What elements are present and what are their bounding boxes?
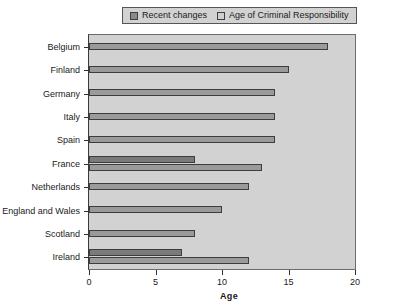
bar-age-of-criminal-responsibility: [89, 113, 275, 120]
x-axis-tick-label: 10: [210, 277, 234, 287]
bar-group: [89, 58, 355, 81]
y-axis-tick: [84, 187, 88, 188]
y-axis-label-belgium: Belgium: [47, 42, 80, 52]
x-axis-tick-label: 5: [144, 277, 168, 287]
bar-age-of-criminal-responsibility: [89, 183, 249, 190]
y-axis-tick: [84, 94, 88, 95]
legend-label-age-of-criminal-responsibility: Age of Criminal Responsibility: [229, 11, 349, 20]
y-axis-tick: [84, 164, 88, 165]
bar-group: [89, 199, 355, 222]
y-axis-tick: [84, 140, 88, 141]
bar-group: [89, 175, 355, 198]
bar-group: [89, 246, 355, 269]
y-axis-label-scotland: Scotland: [45, 229, 80, 239]
chart-legend: Recent changes Age of Criminal Responsib…: [122, 7, 357, 24]
y-axis-tick: [84, 211, 88, 212]
recent-changes-swatch: [130, 12, 138, 20]
y-axis-tick: [84, 47, 88, 48]
bar-group: [89, 82, 355, 105]
bar-recent-changes: [89, 249, 182, 256]
bar-age-of-criminal-responsibility: [89, 164, 262, 171]
x-axis-tick-label: 20: [343, 277, 367, 287]
bar-age-of-criminal-responsibility: [89, 230, 195, 237]
age-of-criminal-responsibility-swatch: [217, 12, 225, 20]
legend-label-recent-changes: Recent changes: [142, 11, 207, 20]
plot-inner: [89, 35, 355, 269]
bar-group: [89, 129, 355, 152]
y-axis-tick: [84, 257, 88, 258]
bar-group: [89, 152, 355, 175]
bar-age-of-criminal-responsibility: [89, 89, 275, 96]
y-axis-label-france: France: [52, 159, 80, 169]
x-axis-tick-label: 0: [77, 277, 101, 287]
x-axis-title: Age: [0, 291, 396, 301]
bar-group: [89, 222, 355, 245]
y-axis-tick: [84, 70, 88, 71]
plot-area: [88, 34, 356, 270]
bar-recent-changes: [89, 156, 195, 163]
legend-entry-age-of-criminal-responsibility: Age of Criminal Responsibility: [217, 11, 349, 20]
x-axis-tick: [289, 270, 290, 275]
x-axis-title-label: Age: [220, 291, 238, 301]
bar-age-of-criminal-responsibility: [89, 206, 222, 213]
x-axis-tick: [222, 270, 223, 275]
bar-age-of-criminal-responsibility: [89, 136, 275, 143]
legend-entry-recent-changes: Recent changes: [130, 11, 207, 20]
y-axis-label-germany: Germany: [43, 89, 80, 99]
bar-age-of-criminal-responsibility: [89, 43, 328, 50]
x-axis-tick-label: 15: [277, 277, 301, 287]
bar-chart: Recent changes Age of Criminal Responsib…: [0, 0, 396, 306]
bar-group: [89, 35, 355, 58]
y-axis-label-spain: Spain: [57, 135, 80, 145]
x-axis-tick: [156, 270, 157, 275]
x-axis-tick: [89, 270, 90, 275]
bar-age-of-criminal-responsibility: [89, 66, 289, 73]
y-axis-label-ireland: Ireland: [52, 252, 80, 262]
y-axis-label-finland: Finland: [50, 65, 80, 75]
y-axis-label-england-and-wales: England and Wales: [2, 206, 80, 216]
y-axis-tick: [84, 234, 88, 235]
x-axis-tick: [355, 270, 356, 275]
bar-age-of-criminal-responsibility: [89, 257, 249, 264]
bar-group: [89, 105, 355, 128]
y-axis-label-netherlands: Netherlands: [31, 182, 80, 192]
y-axis-label-italy: Italy: [63, 112, 80, 122]
y-axis-tick: [84, 117, 88, 118]
